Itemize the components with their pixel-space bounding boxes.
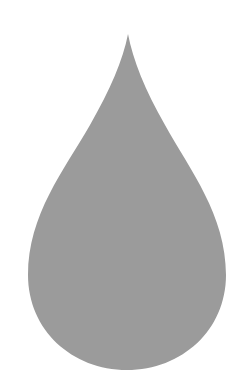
water-drop-icon xyxy=(0,0,248,392)
water-drop-shape xyxy=(28,34,226,370)
image-canvas xyxy=(0,0,248,392)
